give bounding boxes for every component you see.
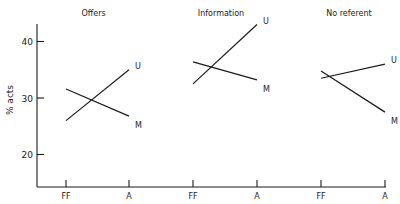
- series-line-u: [321, 64, 385, 78]
- panel-information: InformationFFAUM: [188, 9, 270, 201]
- series-line-m: [193, 62, 257, 80]
- y-tick-label: 20: [22, 150, 34, 160]
- series-label-u: U: [263, 17, 269, 26]
- panel-title: No referent: [326, 9, 371, 18]
- x-tick-label: A: [254, 192, 260, 201]
- series-label-m: M: [135, 121, 142, 130]
- series-line-u: [66, 70, 129, 121]
- axes: 203040% acts: [5, 24, 386, 187]
- chart: 203040% acts OffersFFAUMInformationFFAUM…: [0, 0, 400, 204]
- panel-offers: OffersFFAUM: [61, 9, 142, 201]
- x-tick-label: A: [382, 192, 388, 201]
- x-tick-label: FF: [61, 192, 71, 201]
- panel-title: Information: [198, 9, 244, 18]
- x-tick-label: A: [126, 192, 132, 201]
- series-line-u: [193, 25, 257, 84]
- panels: OffersFFAUMInformationFFAUMNo referentFF…: [61, 9, 398, 201]
- y-tick-label: 40: [22, 37, 34, 47]
- y-tick-label: 30: [22, 94, 34, 104]
- panel-title: Offers: [81, 9, 105, 18]
- y-axis-label: % acts: [5, 85, 15, 115]
- series-label-m: M: [391, 117, 398, 126]
- x-tick-label: FF: [188, 192, 198, 201]
- series-label-m: M: [263, 85, 270, 94]
- series-line-m: [66, 89, 129, 116]
- series-line-m: [321, 71, 385, 112]
- panel-no-referent: No referentFFAUM: [316, 9, 398, 201]
- series-label-u: U: [135, 62, 141, 71]
- series-label-u: U: [391, 56, 397, 65]
- x-tick-label: FF: [316, 192, 326, 201]
